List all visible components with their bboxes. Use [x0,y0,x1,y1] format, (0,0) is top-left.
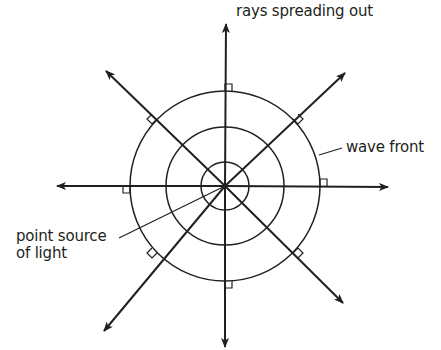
ray-right [225,186,388,187]
point-source-label: point source of light [16,228,106,262]
ray-down-right [225,186,343,303]
rays-label: rays spreading out [236,3,373,20]
right-angle-marker-down-right [293,248,303,258]
wave-front-diagram: rays spreading out wave front point sour… [0,0,441,350]
ray-up-left [106,71,225,186]
wave-front-label: wave front [346,139,424,156]
right-angle-marker-right [320,179,327,186]
point-source-leader [119,186,225,238]
ray-down-left [104,186,225,331]
point-source-label-line1: point source [16,228,106,245]
diagram-canvas [0,0,441,350]
right-angle-marker-down [225,281,232,288]
ray-up [225,24,226,186]
right-angle-marker-down-left [147,248,157,258]
right-angle-marker-up-right [293,114,303,124]
point-source-label-line2: of light [16,245,106,262]
wave-front-leader [319,148,342,155]
right-angle-marker-left [123,186,130,193]
